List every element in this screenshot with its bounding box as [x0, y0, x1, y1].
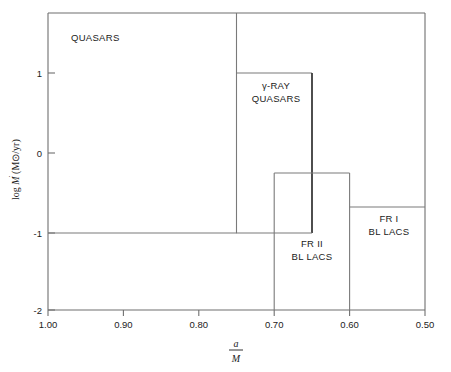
region-quasars-outline [48, 13, 237, 233]
x-ticklabel-1: 0.90 [114, 319, 133, 330]
y-ticklabel-0: 1 [37, 68, 42, 79]
x-ticklabel-0: 1.00 [39, 319, 58, 330]
y-ticklabel-2: -1 [34, 228, 42, 239]
x-axis-tick-labels: 1.00 0.90 0.80 0.70 0.60 0.50 [39, 319, 435, 330]
x-ticklabel-5: 0.50 [416, 319, 435, 330]
x-ticklabel-3: 0.70 [265, 319, 284, 330]
plot-svg: 1.00 0.90 0.80 0.70 0.60 0.50 1 0 -1 -2 [0, 0, 451, 372]
y-axis-title-text: log Ṁ (M⊙/yr) [9, 139, 22, 200]
fr2-bl-lacs-label-line1: FR II [301, 238, 323, 249]
x-ticklabel-4: 0.60 [340, 319, 359, 330]
x-axis-title-numerator: a [234, 338, 239, 349]
y-ticklabel-1: 0 [37, 148, 42, 159]
y-axis-title-prefix: log [10, 187, 21, 200]
x-axis-title: a M [229, 338, 243, 364]
y-ticklabel-3: -2 [34, 305, 42, 316]
gamma-ray-quasars-label-line2: QUASARS [252, 93, 301, 104]
gamma-ray-quasars-label-line1: γ-RAY [262, 80, 291, 91]
fr1-bl-lacs-label-line2: BL LACS [369, 226, 410, 237]
agn-unification-diagram: 1.00 0.90 0.80 0.70 0.60 0.50 1 0 -1 -2 [0, 0, 451, 372]
x-axis-title-denominator: M [231, 353, 241, 364]
region-label-fr1-bl-lacs: FR I BL LACS [369, 213, 410, 237]
x-ticklabel-2: 0.80 [190, 319, 209, 330]
y-axis-title-units: (M⊙/yr) [10, 139, 22, 174]
fr2-bl-lacs-label-line2: BL LACS [292, 251, 333, 262]
quasars-boundary [48, 13, 237, 233]
fr1-bl-lacs-label-line1: FR I [379, 213, 398, 224]
y-axis-tick-labels: 1 0 -1 -2 [34, 68, 42, 316]
quasars-label: QUASARS [71, 32, 120, 43]
x-axis-ticks [48, 310, 425, 316]
y-axis-title: log Ṁ (M⊙/yr) [9, 139, 22, 200]
y-axis-ticks [48, 73, 55, 310]
region-label-gamma-ray-quasars: γ-RAY QUASARS [252, 80, 301, 104]
region-label-quasars: QUASARS [71, 32, 120, 43]
region-label-fr2-bl-lacs: FR II BL LACS [292, 238, 333, 262]
